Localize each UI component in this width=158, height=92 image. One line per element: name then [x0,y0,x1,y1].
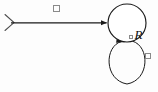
edge-label-top-missing-glyph-box-icon [53,5,60,12]
edge-label-right-missing-glyph-box-icon [145,53,151,59]
state-diagram-canvas: R R state-transition-diagram [0,0,158,92]
state-node-circle[interactable] [108,4,146,42]
state-diagram-graphics [0,0,158,92]
self-loop-edge [109,41,145,84]
